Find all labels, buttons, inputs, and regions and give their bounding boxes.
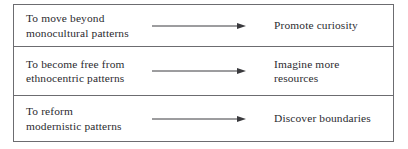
source-text-line-2: monocultural patterns [26, 26, 151, 40]
source-text-line-1: To reform [26, 105, 73, 117]
table-row: To reform modernistic patterns Discover … [14, 96, 393, 141]
arrow-table: To move beyond monocultural patterns Pro… [13, 4, 394, 142]
table-row: To move beyond monocultural patterns Pro… [14, 5, 393, 47]
target-text-line-1: Promote curiosity [274, 19, 358, 31]
target-cell: Promote curiosity [264, 18, 393, 32]
target-text-line-1: Imagine more [274, 58, 339, 70]
target-text-line-2: resources [274, 71, 393, 85]
arrow-cell [151, 5, 264, 46]
right-arrow-icon [152, 114, 246, 123]
source-cell: To reform modernistic patterns [14, 104, 151, 132]
source-text-line-1: To move beyond [26, 12, 105, 24]
right-arrow-icon [152, 67, 246, 76]
source-text-line-2: modernistic patterns [26, 119, 151, 133]
right-arrow-icon [152, 21, 246, 30]
source-text-line-2: ethnocentric patterns [26, 71, 151, 85]
table-row: To become free from ethnocentric pattern… [14, 47, 393, 96]
target-text-line-1: Discover boundaries [274, 112, 371, 124]
source-cell: To move beyond monocultural patterns [14, 11, 151, 39]
target-cell: Imagine more resources [264, 57, 393, 85]
arrow-cell [151, 47, 264, 95]
target-cell: Discover boundaries [264, 111, 393, 125]
diagram-root: To move beyond monocultural patterns Pro… [0, 0, 408, 149]
arrow-cell [151, 96, 264, 141]
source-cell: To become free from ethnocentric pattern… [14, 57, 151, 85]
source-text-line-1: To become free from [26, 58, 125, 70]
